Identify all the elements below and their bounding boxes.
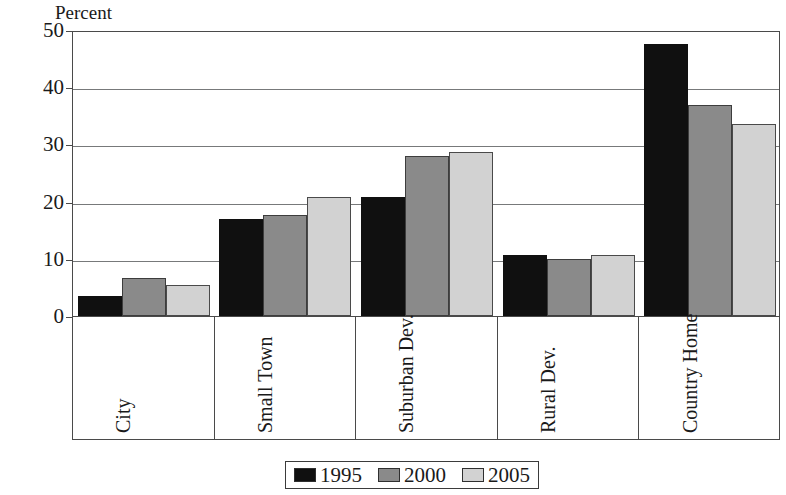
legend-item-2000: 2000 bbox=[378, 465, 446, 486]
legend-label: 2005 bbox=[488, 465, 530, 486]
bar-2000-rural-dev bbox=[547, 259, 591, 316]
category-cell: Suburban Dev. bbox=[356, 317, 498, 439]
bar-2000-city bbox=[122, 278, 166, 316]
x-axis-label-suburban-dev: Suburban Dev. bbox=[396, 314, 416, 433]
bar-2005-suburban-dev bbox=[449, 152, 493, 316]
legend-swatch-icon bbox=[294, 468, 316, 482]
bar-chart: Percent 01020304050 CitySmall TownSuburb… bbox=[0, 0, 786, 495]
plot-area bbox=[72, 31, 780, 317]
bar-group bbox=[215, 32, 357, 316]
x-axis-label-country-home: Country Home bbox=[680, 314, 700, 433]
legend-swatch-icon bbox=[462, 468, 484, 482]
bar-2000-small-town bbox=[263, 215, 307, 316]
y-axis-tick-label: 20 bbox=[18, 192, 64, 213]
legend-label: 2000 bbox=[404, 465, 446, 486]
chart-legend: 199520002005 bbox=[285, 461, 539, 489]
bar-group bbox=[498, 32, 640, 316]
bar-2005-city bbox=[166, 285, 210, 317]
y-axis-tick-label: 40 bbox=[18, 77, 64, 98]
x-axis-label-city: City bbox=[113, 399, 133, 433]
y-axis-tick-label: 10 bbox=[18, 249, 64, 270]
bar-2005-rural-dev bbox=[591, 255, 635, 316]
bar-2000-suburban-dev bbox=[405, 156, 449, 316]
legend-item-2005: 2005 bbox=[462, 465, 530, 486]
category-cell: City bbox=[73, 317, 215, 439]
category-label-box: CitySmall TownSuburban Dev.Rural Dev.Cou… bbox=[72, 317, 780, 440]
bar-1995-city bbox=[78, 296, 122, 316]
y-axis-title: Percent bbox=[55, 2, 112, 24]
bar-2005-country-home bbox=[732, 124, 776, 316]
bar-2005-small-town bbox=[307, 197, 351, 316]
legend-swatch-icon bbox=[378, 468, 400, 482]
y-axis-tick-label: 0 bbox=[18, 306, 64, 327]
category-cell: Small Town bbox=[215, 317, 357, 439]
bar-1995-suburban-dev bbox=[361, 197, 405, 316]
x-axis-label-rural-dev: Rural Dev. bbox=[538, 347, 558, 433]
bar-2000-country-home bbox=[688, 105, 732, 316]
legend-label: 1995 bbox=[320, 465, 362, 486]
x-axis-label-small-town: Small Town bbox=[255, 336, 275, 433]
bar-1995-small-town bbox=[219, 219, 263, 316]
category-cell: Country Home bbox=[639, 317, 781, 439]
bar-group bbox=[356, 32, 498, 316]
bar-1995-country-home bbox=[644, 44, 688, 316]
bars-layer bbox=[73, 32, 779, 316]
legend-item-1995: 1995 bbox=[294, 465, 362, 486]
category-cell: Rural Dev. bbox=[498, 317, 640, 439]
y-axis-tick-label: 30 bbox=[18, 134, 64, 155]
bar-group bbox=[73, 32, 215, 316]
bar-group bbox=[639, 32, 781, 316]
bar-1995-rural-dev bbox=[503, 255, 547, 316]
